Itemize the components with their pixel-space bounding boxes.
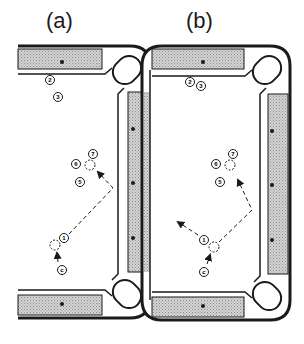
diamond-marker (131, 236, 135, 240)
pocket-bottom-right (108, 275, 146, 313)
diamond-marker (60, 302, 64, 306)
diamond-marker (131, 181, 135, 185)
ghost-ball (50, 240, 60, 250)
diamond-marker (270, 183, 274, 187)
table-a: 2 3 7 6 5 1 c (18, 46, 150, 318)
pocket-top-right (108, 51, 146, 89)
ghost-ball (85, 160, 95, 170)
billiards-diagram: 2 3 7 6 5 1 c (0, 0, 304, 344)
diamond-marker (131, 127, 135, 131)
diamond-marker (270, 238, 274, 242)
diamond-marker (270, 129, 274, 133)
diamond-marker (201, 60, 205, 64)
diamond-marker (201, 304, 205, 308)
table-b: 2 3 7 6 5 1 c (142, 46, 290, 320)
diamond-marker (60, 60, 64, 64)
